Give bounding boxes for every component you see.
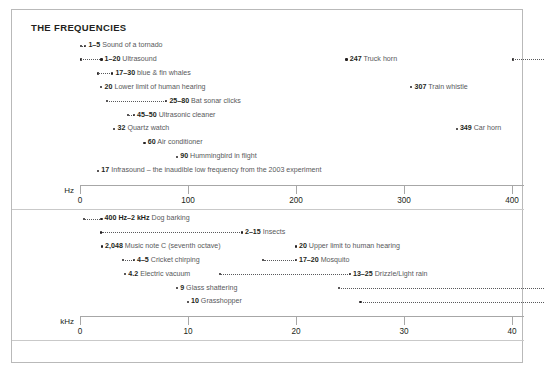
entry-value: 4–5 (137, 256, 149, 264)
entry-label: Ultrasound (120, 55, 156, 63)
entry-label: Infrasound – the inaudible low frequency… (109, 166, 321, 174)
entry-label: blue & fin whales (135, 69, 191, 77)
entry-text: 60 Air conditioner (148, 137, 203, 148)
entry-value: 13–25 (353, 270, 373, 278)
axis-tick-label: 200 (289, 196, 303, 205)
entry-label: Air conditioner (156, 138, 203, 146)
axis-unit-label: kHz (28, 317, 74, 326)
range-connector (339, 288, 544, 289)
marker-dot-icon (133, 114, 135, 116)
entry-value: 2,048 (105, 242, 123, 250)
marker-dot-icon (345, 58, 347, 60)
entry-value: 17 (101, 166, 109, 174)
entry-value: 25–80 (169, 97, 189, 105)
marker-dot-icon (187, 301, 189, 303)
entry-label: Music note C (seventh octave) (123, 242, 221, 250)
axis-tick-label: 20 (291, 327, 300, 336)
range-connector (98, 73, 112, 74)
entry-label: Lower limit of human hearing (112, 83, 205, 91)
axis-line (80, 316, 524, 317)
marker-dot-icon (176, 287, 178, 289)
marker-dot-icon (143, 142, 145, 144)
axis-line (80, 185, 524, 186)
range-connector (84, 219, 101, 220)
marker-dot-icon (410, 86, 412, 88)
entry-text: 90 Hummingbird in flight (180, 151, 257, 162)
entry-label: Upper limit to human hearing (307, 242, 400, 250)
axis-tick (512, 316, 513, 325)
entry-value: 307 (415, 83, 427, 91)
entry-label: Grasshopper (199, 297, 242, 305)
entry-label: Hummingbird in flight (188, 152, 257, 160)
entry-text: 17–30 blue & fin whales (115, 68, 190, 79)
panel-divider (12, 340, 524, 341)
entry-text: 307 Train whistle (415, 82, 468, 93)
axis-tick-label: 400 (505, 196, 519, 205)
entry-value: 45–50 (137, 111, 157, 119)
entry-value: 20 (105, 83, 113, 91)
axis-tick (404, 316, 405, 325)
axis-tick (296, 316, 297, 325)
entry-value: 17–20 (299, 256, 319, 264)
entry-text: 10 Grasshopper (191, 296, 242, 307)
entry-label: Drizzle/Light rain (373, 270, 428, 278)
marker-dot-icon (97, 170, 99, 172)
entry-label: Electric vacuum (138, 270, 190, 278)
x-axis: kHz010203040 (12, 316, 524, 346)
entry-value: 349 (460, 124, 472, 132)
axis-tick-label: 10 (183, 327, 192, 336)
axis-tick (80, 316, 81, 325)
marker-dot-icon (101, 245, 103, 247)
entry-text: 1–5 Sound of a tornado (88, 40, 162, 51)
entry-value: 60 (148, 138, 156, 146)
entry-value: 247 (350, 55, 362, 63)
marker-dot-icon (456, 128, 458, 130)
entry-label: Dog barking (150, 214, 190, 222)
entry-label: Mosquito (319, 256, 350, 264)
entry-text: 9 Glass shattering (180, 283, 237, 294)
entry-text: 25–80 Bat sonar clicks (169, 96, 240, 107)
range-connector (513, 59, 544, 60)
axis-tick (512, 185, 513, 194)
entry-text: 13–25 Drizzle/Light rain (353, 269, 428, 280)
entry-value: 10 (191, 297, 199, 305)
entry-value: 1–20 (105, 55, 121, 63)
marker-dot-icon (100, 58, 102, 60)
marker-dot-icon (84, 45, 86, 47)
entry-value: 20 (299, 242, 307, 250)
axis-tick (188, 185, 189, 194)
entry-text: 1–20 Ultrasound (105, 54, 157, 65)
entry-value: 4.2 (128, 270, 138, 278)
marker-dot-icon (100, 86, 102, 88)
marker-dot-icon (241, 231, 243, 233)
entry-label: Truck horn (362, 55, 397, 63)
entry-text: 20 Upper limit to human hearing (299, 241, 400, 252)
range-connector (361, 302, 544, 303)
entry-value: 1–5 (88, 41, 100, 49)
axis-tick-label: 30 (399, 327, 408, 336)
entry-label: Cricket chirping (149, 256, 200, 264)
entry-label: Insects (261, 228, 285, 236)
entry-label: Ultrasonic cleaner (157, 111, 216, 119)
page-title: THE FREQUENCIES (31, 22, 127, 33)
entry-text: 4–5 Cricket chirping (137, 255, 200, 266)
axis-tick-label: 40 (507, 327, 516, 336)
marker-dot-icon (100, 218, 102, 220)
entry-value: 90 (180, 152, 188, 160)
axis-tick (296, 185, 297, 194)
axis-tick-label: 0 (78, 196, 83, 205)
marker-dot-icon (295, 245, 297, 247)
entry-text: 20 Lower limit of human hearing (105, 82, 206, 93)
entry-label: Train whistle (426, 83, 467, 91)
entry-text: 349 Car horn (460, 123, 501, 134)
marker-dot-icon (176, 156, 178, 158)
entry-text: 4.2 Electric vacuum (128, 269, 190, 280)
entry-label: Bat sonar clicks (189, 97, 241, 105)
axis-tick-label: 100 (181, 196, 195, 205)
entry-text: 17–20 Mosquito (299, 255, 350, 266)
axis-tick (188, 316, 189, 325)
entry-text: 2,048 Music note C (seventh octave) (105, 241, 221, 252)
range-connector (264, 260, 296, 261)
entry-text: 45–50 Ultrasonic cleaner (137, 110, 215, 121)
range-connector (102, 232, 242, 233)
